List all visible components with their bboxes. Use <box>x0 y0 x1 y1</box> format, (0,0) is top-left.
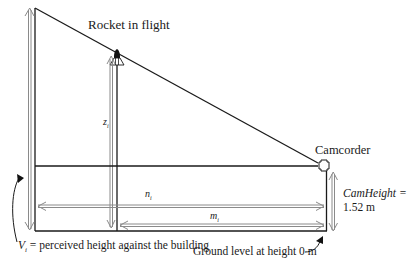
ni-sub: i <box>150 195 152 201</box>
zi-sub: i <box>107 123 109 129</box>
mi-label: mi <box>210 211 219 223</box>
mi-sub: i <box>217 217 219 223</box>
rocket-label: Rocket in flight <box>88 18 170 31</box>
ni-arrow <box>38 202 324 211</box>
vi-description: Vi = perceived height against the buildi… <box>18 240 209 254</box>
ni-label: ni <box>145 189 152 201</box>
zi-arrow <box>107 56 115 228</box>
vi-desc-text: = perceived height against the building <box>27 239 209 251</box>
camcorder-label: Camcorder <box>315 144 371 157</box>
camheight-value: 1.52 m <box>343 202 375 214</box>
camcorder-icon <box>319 160 329 171</box>
vi-arrow <box>25 8 34 230</box>
vi-var: V <box>18 239 25 251</box>
mi-arrow <box>120 221 324 230</box>
camheight-arrow <box>329 172 338 231</box>
camheight-name: CamHeight = <box>343 188 407 200</box>
vi-pointer <box>13 174 24 242</box>
ground-label: Ground level at height 0 m <box>193 246 317 258</box>
sight-line <box>35 8 318 163</box>
zi-label: zi <box>103 117 109 129</box>
